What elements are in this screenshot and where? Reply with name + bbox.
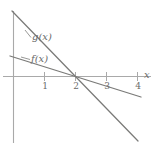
f-label-leader: [21, 57, 30, 60]
function-graph-figure: 1 2 3 4 g(x) f(x) x: [0, 0, 161, 151]
x-axis-label: x: [144, 69, 150, 80]
x-tick-label-4: 4: [131, 81, 145, 91]
g-label-leader: [25, 30, 31, 38]
curve-label-f: f(x): [31, 53, 48, 64]
x-tick-label-1: 1: [38, 81, 52, 91]
x-tick-label-2: 2: [69, 81, 83, 91]
x-tick-label-3: 3: [100, 81, 114, 91]
plot-canvas: [0, 0, 161, 151]
curve-label-g: g(x): [32, 31, 52, 42]
